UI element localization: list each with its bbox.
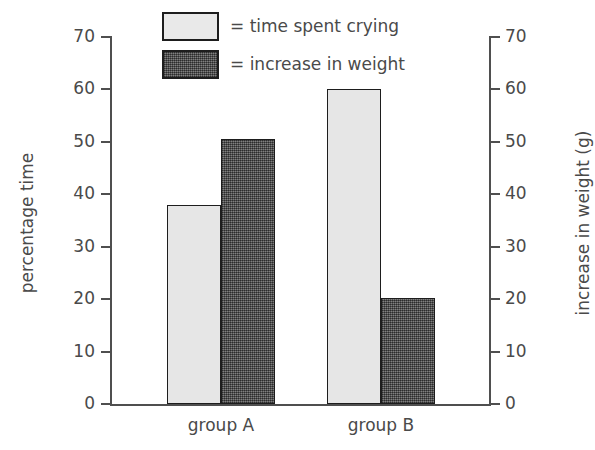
left-axis-tick (101, 246, 110, 248)
left-axis-tick-label: 40 (35, 185, 95, 202)
left-axis-tick (101, 403, 110, 405)
left-axis-tick-label: 60 (35, 80, 95, 97)
left-y-axis-title: percentage time (17, 133, 37, 313)
right-axis-tick-label: 60 (505, 80, 527, 97)
right-axis-tick (491, 193, 500, 195)
left-axis-tick (101, 88, 110, 90)
left-axis-tick-label: 10 (35, 343, 95, 360)
right-axis-tick (491, 403, 500, 405)
right-axis-tick-label: 70 (505, 28, 527, 45)
legend-label-increase-in-weight: = increase in weight (230, 51, 405, 77)
left-axis-tick-label: 30 (35, 238, 95, 255)
bar-group-b-increase-in-weight (381, 298, 435, 404)
legend-swatch-light-icon (162, 12, 219, 41)
group-label-group-a: group A (137, 415, 305, 435)
bar-group-b-time-spent-crying (327, 89, 381, 404)
right-axis-tick (491, 88, 500, 90)
left-axis-tick-label: 50 (35, 133, 95, 150)
left-axis-tick-label: 70 (35, 28, 95, 45)
right-axis-tick (491, 246, 500, 248)
left-axis-tick (101, 193, 110, 195)
right-axis-tick (491, 36, 500, 38)
bar-group-a-time-spent-crying (167, 205, 221, 404)
group-label-group-b: group B (297, 415, 465, 435)
right-axis-tick-label: 50 (505, 133, 527, 150)
left-axis-tick-label: 20 (35, 290, 95, 307)
left-y-axis-line (110, 36, 112, 406)
left-axis-tick (101, 141, 110, 143)
right-y-axis-title: increase in weight (g) (573, 108, 593, 338)
right-axis-tick-label: 10 (505, 343, 527, 360)
right-axis-tick (491, 298, 500, 300)
right-axis-tick (491, 351, 500, 353)
right-axis-tick (491, 141, 500, 143)
bar-group-a-increase-in-weight (221, 139, 275, 404)
right-axis-tick-label: 30 (505, 238, 527, 255)
right-axis-tick-label: 20 (505, 290, 527, 307)
right-axis-tick-label: 0 (505, 395, 516, 412)
legend-label-time-spent-crying: = time spent crying (230, 13, 399, 39)
bar-chart: 010203040506070 010203040506070 percenta… (0, 0, 595, 450)
left-axis-tick-label: 0 (35, 395, 95, 412)
left-axis-tick (101, 36, 110, 38)
left-axis-tick (101, 351, 110, 353)
legend-swatch-dark-icon (162, 50, 219, 79)
x-axis-line (110, 404, 491, 406)
left-axis-tick (101, 298, 110, 300)
right-axis-tick-label: 40 (505, 185, 527, 202)
